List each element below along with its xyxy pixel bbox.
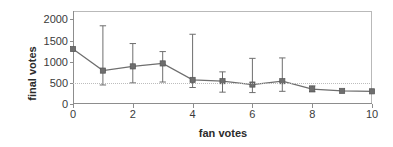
data-point-marker — [190, 77, 195, 82]
y-axis-tick-label: 500 — [22, 77, 68, 89]
data-series-layer — [73, 11, 372, 104]
y-axis-tick-mark — [70, 19, 74, 20]
x-axis-tick-label: 8 — [309, 108, 315, 120]
plot-area — [73, 11, 372, 104]
data-point-marker — [70, 46, 75, 51]
gridline-500 — [73, 83, 372, 84]
data-point-marker — [160, 61, 165, 66]
x-axis-tick-label: 10 — [366, 108, 378, 120]
y-axis-tick-label: 1500 — [22, 35, 68, 47]
data-point-marker — [100, 68, 105, 73]
x-axis-tick-label: 0 — [70, 108, 76, 120]
x-axis-tick-label: 2 — [130, 108, 136, 120]
x-axis-title: fan votes — [73, 127, 373, 139]
data-point-marker — [340, 88, 345, 93]
y-axis-tick-labels: 0500100015002000 — [18, 0, 68, 147]
data-point-marker — [310, 87, 315, 92]
y-axis-tick-mark — [70, 62, 74, 63]
y-axis-tick-label: 0 — [22, 98, 68, 110]
x-axis-tick-label: 6 — [249, 108, 255, 120]
y-axis-tick-mark — [70, 41, 74, 42]
data-point-marker — [369, 89, 374, 94]
data-point-marker — [130, 64, 135, 69]
y-axis-tick-label: 2000 — [22, 13, 68, 25]
x-axis-tick-label: 4 — [190, 108, 196, 120]
chart-container: final votes 0500100015002000 fan votes 0… — [0, 0, 393, 147]
y-axis-tick-label: 1000 — [22, 56, 68, 68]
